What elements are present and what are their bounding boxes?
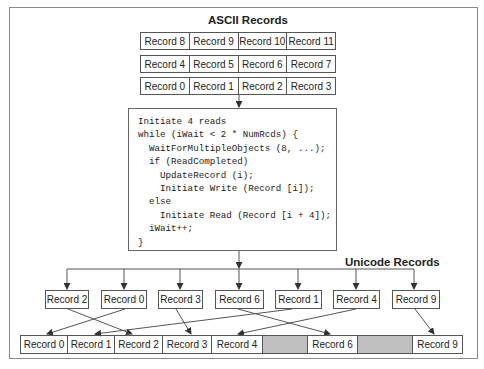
unicode-buffer-box: Record 3 xyxy=(158,290,203,309)
unicode-record-cell: Record 6 xyxy=(308,336,358,353)
unicode-record-cell: Record 9 xyxy=(413,336,462,353)
unicode-buffer-box: Record 4 xyxy=(333,290,380,309)
unicode-buffer-box: Record 1 xyxy=(275,290,322,309)
unicode-record-cell: Record 3 xyxy=(163,336,212,353)
unicode-record-cell: Record 0 xyxy=(21,336,68,353)
unicode-output-row: Record 0 Record 1 Record 2 Record 3 Reco… xyxy=(20,335,463,354)
unicode-buffer-box: Record 6 xyxy=(215,290,264,309)
unicode-empty-cell xyxy=(263,336,308,353)
unicode-buffer-box: Record 2 xyxy=(45,290,89,309)
unicode-record-cell: Record 2 xyxy=(115,336,163,353)
unicode-empty-cell xyxy=(358,336,413,353)
connector-arrows xyxy=(0,0,484,369)
unicode-record-cell: Record 1 xyxy=(68,336,115,353)
unicode-buffer-box: Record 9 xyxy=(392,290,440,309)
unicode-record-cell: Record 4 xyxy=(212,336,263,353)
unicode-buffer-box: Record 0 xyxy=(101,290,147,309)
